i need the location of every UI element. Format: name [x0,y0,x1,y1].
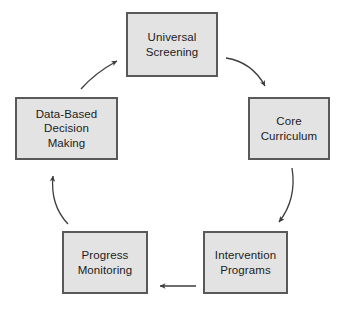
node-progress-monitoring[interactable]: Progress Monitoring [62,231,148,294]
node-label: Data-Based Decision Making [36,107,98,151]
node-label: Progress Monitoring [78,248,133,277]
node-core-curriculum[interactable]: Core Curriculum [248,97,330,160]
arrow-screening-to-curriculum [226,58,265,86]
cycle-diagram: Universal Screening Core Curriculum Inte… [0,0,342,319]
node-universal-screening[interactable]: Universal Screening [126,12,218,77]
node-intervention-programs[interactable]: Intervention Programs [203,231,288,294]
node-data-based-decision-making[interactable]: Data-Based Decision Making [15,97,118,160]
node-label: Intervention Programs [215,248,276,277]
arrow-curriculum-to-intervention [279,168,293,222]
arrow-data-to-screening [81,61,117,89]
node-label: Core Curriculum [261,114,318,143]
node-label: Universal Screening [146,30,199,59]
arrow-progress-to-data [53,176,68,224]
